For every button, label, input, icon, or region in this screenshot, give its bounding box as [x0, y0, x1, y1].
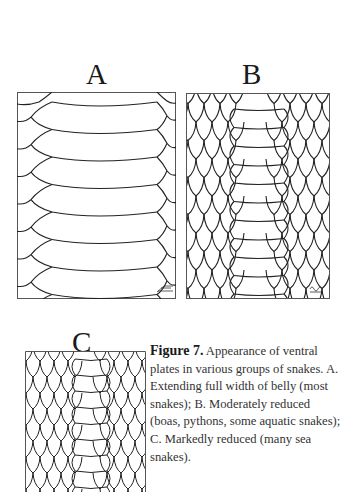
panel-b-illustration	[186, 93, 330, 299]
panel-c-illustration	[25, 351, 146, 492]
figure-caption: Figure 7. Appearance of ventral plates i…	[150, 342, 342, 466]
panel-label-a: A	[86, 60, 107, 89]
caption-text: Appearance of ventral plates in various …	[150, 344, 340, 464]
panel-a-illustration	[17, 92, 176, 299]
ventral-plates-full-width-drawing	[17, 92, 176, 299]
ventral-plates-markedly-reduced-drawing	[25, 351, 146, 492]
figure-number: Figure 7.	[150, 343, 203, 358]
panel-label-b: B	[242, 60, 261, 89]
ventral-plates-moderately-reduced-drawing	[186, 93, 330, 299]
